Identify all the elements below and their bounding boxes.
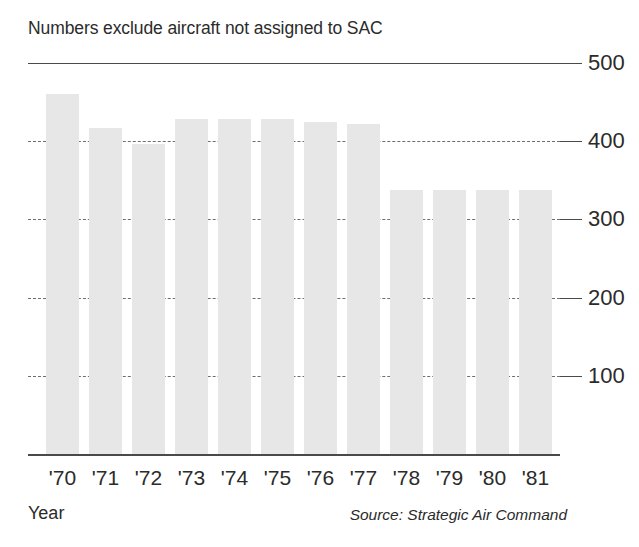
- x-tick-label-77: '77: [347, 466, 380, 490]
- y-tick-300: [560, 219, 582, 220]
- x-tick-label-75: '75: [261, 466, 294, 490]
- bar-71[interactable]: [89, 128, 122, 454]
- y-tick-label-300: 300: [588, 208, 625, 230]
- bar-77[interactable]: [347, 124, 380, 454]
- y-tick-label-500: 500: [588, 52, 625, 74]
- x-axis-line: [28, 454, 560, 456]
- source-note: Source: Strategic Air Command: [350, 505, 567, 525]
- x-tick-label-78: '78: [390, 466, 423, 490]
- x-tick-label-70: '70: [46, 466, 79, 490]
- x-tick-label-80: '80: [476, 466, 509, 490]
- x-tick-label-71: '71: [89, 466, 122, 490]
- bar-72[interactable]: [132, 144, 165, 454]
- y-tick-label-100: 100: [588, 365, 625, 387]
- x-tick-label-74: '74: [218, 466, 251, 490]
- x-tick-label-81: '81: [519, 466, 552, 490]
- y-tick-200: [560, 298, 582, 299]
- bar-80[interactable]: [476, 190, 509, 454]
- y-tick-500: [560, 63, 582, 64]
- bar-75[interactable]: [261, 119, 294, 454]
- gridline-500: [28, 63, 560, 64]
- bar-76[interactable]: [304, 122, 337, 454]
- y-tick-label-400: 400: [588, 130, 625, 152]
- bar-74[interactable]: [218, 119, 251, 454]
- plot-area: 500400300200100 '70'71'72'73'74'75'76'77…: [0, 0, 639, 547]
- x-axis-title: Year: [28, 502, 64, 524]
- y-tick-label-200: 200: [588, 287, 625, 309]
- x-tick-label-73: '73: [175, 466, 208, 490]
- bar-73[interactable]: [175, 119, 208, 454]
- chart-figure: Numbers exclude aircraft not assigned to…: [0, 0, 639, 547]
- bar-79[interactable]: [433, 190, 466, 454]
- x-tick-label-76: '76: [304, 466, 337, 490]
- bar-78[interactable]: [390, 190, 423, 454]
- y-tick-400: [560, 141, 582, 142]
- bar-70[interactable]: [46, 94, 79, 454]
- bar-81[interactable]: [519, 190, 552, 454]
- y-tick-100: [560, 376, 582, 377]
- x-tick-label-72: '72: [132, 466, 165, 490]
- x-tick-label-79: '79: [433, 466, 466, 490]
